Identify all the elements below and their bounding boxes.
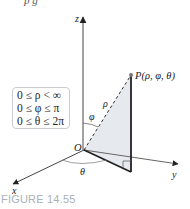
theta-label: θ xyxy=(80,166,85,177)
shaded-plane xyxy=(84,75,131,172)
point-p xyxy=(129,73,133,77)
origin-label: O xyxy=(74,142,82,153)
z-label: z xyxy=(74,13,79,24)
coordinate-ranges-box: 0 ≤ ρ < ∞ 0 ≤ φ ≤ π 0 ≤ θ ≤ 2π xyxy=(12,87,70,129)
figure-caption: FIGURE 14.55 xyxy=(1,193,76,205)
phi-range: 0 ≤ φ ≤ π xyxy=(17,102,69,115)
phi-label: φ xyxy=(89,111,95,122)
rho-label: ρ xyxy=(102,98,108,109)
theta-range: 0 ≤ θ ≤ 2π xyxy=(17,115,69,128)
phi-arc xyxy=(83,123,98,127)
x-axis xyxy=(13,150,84,184)
point-label: P(ρ, φ, θ) xyxy=(134,70,175,82)
y-label: y xyxy=(171,169,177,180)
theta-arc xyxy=(62,160,107,164)
rho-range: 0 ≤ ρ < ∞ xyxy=(17,89,69,102)
